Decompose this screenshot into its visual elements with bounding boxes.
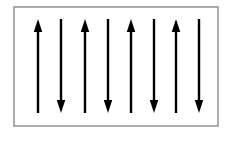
figure-container: A rectangular frame containing eight equ…	[0, 0, 231, 143]
arrows-diagram-svg	[0, 0, 231, 143]
figure-border-rect	[14, 7, 218, 126]
